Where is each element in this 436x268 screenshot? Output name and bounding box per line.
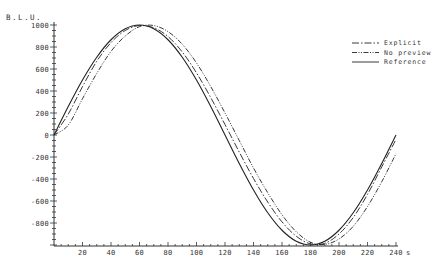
x-tick-label: 20 [78, 249, 87, 257]
axes [54, 22, 398, 246]
y-axis-ticks: 10008006004002000-200-400-600-800 [31, 22, 57, 246]
x-tick-label: 220 [361, 249, 375, 257]
series-reference [54, 25, 396, 245]
x-tick-label: 240 [389, 249, 403, 257]
legend-label: No preview [384, 49, 431, 57]
x-tick-label: 60 [135, 249, 144, 257]
plot-series [54, 25, 396, 245]
y-tick-label: 200 [35, 110, 49, 118]
x-tick-label: 180 [304, 249, 318, 257]
y-tick-label: -200 [31, 154, 49, 162]
legend-label: Explicit [384, 39, 422, 47]
x-tick-label: 120 [218, 249, 232, 257]
x-axis-unit-label: s [406, 249, 411, 257]
y-tick-label: 0 [44, 132, 49, 140]
y-tick-label: 400 [35, 88, 49, 96]
y-tick-label: 600 [35, 66, 49, 74]
x-tick-label: 100 [190, 249, 204, 257]
line-chart: B.L.U. 10008006004002000-200-400-600-800… [0, 0, 436, 268]
x-tick-label: 140 [247, 249, 261, 257]
legend: ExplicitNo previewReference [352, 39, 431, 66]
x-tick-label: 160 [275, 249, 289, 257]
y-tick-label: 800 [35, 44, 49, 52]
y-tick-label: -800 [31, 220, 49, 228]
x-tick-label: 200 [332, 249, 346, 257]
legend-label: Reference [384, 58, 426, 66]
y-tick-label: -600 [31, 198, 49, 206]
x-tick-label: 80 [163, 249, 172, 257]
x-axis-ticks: 20406080100120140160180200220240s [61, 242, 410, 257]
x-tick-label: 40 [106, 249, 115, 257]
y-tick-label: -400 [31, 176, 49, 184]
y-tick-label: 1000 [31, 22, 49, 30]
